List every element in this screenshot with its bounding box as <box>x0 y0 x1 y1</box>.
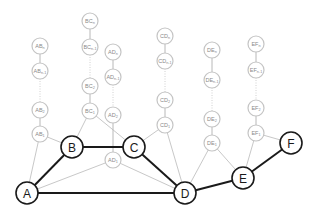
node-label: F <box>287 137 294 151</box>
node-label: B <box>68 141 76 155</box>
aux-node-bc-n: BCn <box>82 13 98 29</box>
aux-node-ad-2: AD2 <box>105 107 121 123</box>
aux-node-de-n: DEn <box>204 42 220 58</box>
aux-node-cd-2: CD2 <box>157 92 173 108</box>
node-f: F <box>280 132 302 154</box>
node-c: C <box>123 136 145 158</box>
aux-node-ef-1: EF1 <box>248 125 264 141</box>
node-e: E <box>232 167 254 189</box>
node-d: D <box>174 182 196 204</box>
aux-node-de-n-1: DEn-1 <box>204 72 220 88</box>
aux-node-cd-n-1: CDn-1 <box>157 53 173 69</box>
node-label: E <box>239 172 247 186</box>
aux-node-ab-2: AB2 <box>32 102 48 118</box>
aux-node-ab-1: AB1 <box>32 126 48 142</box>
aux-node-cd-n: CDn <box>157 28 173 44</box>
aux-node-ab-n-1: ABn-1 <box>32 63 48 79</box>
node-label: A <box>23 187 31 201</box>
aux-node-bc-2: BC2 <box>82 78 98 94</box>
node-label: C <box>130 141 139 155</box>
aux-node-ef-2: EF2 <box>248 100 264 116</box>
aux-node-ef-n: EFn <box>248 36 264 52</box>
aux-node-cd-1: CD1 <box>157 117 173 133</box>
aux-node-de-2: DE2 <box>204 111 220 127</box>
aux-node-bc-n-1: BCn-1 <box>82 39 98 55</box>
aux-node-ef-n-1: EFn-1 <box>248 62 264 78</box>
aux-node-de-1: DE1 <box>204 135 220 151</box>
aux-node-ad-n: ADn <box>105 44 121 60</box>
aux-node-bc-1: BC1 <box>82 103 98 119</box>
chain-link-AD-D <box>113 160 185 193</box>
graph-diagram: ABnABn-1AB2AB1BCnBCn-1BC2BC1ADnADn-1AD2A… <box>0 0 322 219</box>
aux-node-ad-n-1: ADn-1 <box>105 69 121 85</box>
node-a: A <box>16 182 38 204</box>
node-label: D <box>181 187 190 201</box>
node-b: B <box>61 136 83 158</box>
chain-link-AD-A <box>27 160 113 193</box>
aux-node-ad-1: AD1 <box>105 152 121 168</box>
aux-node-ab-n: ABn <box>32 38 48 54</box>
